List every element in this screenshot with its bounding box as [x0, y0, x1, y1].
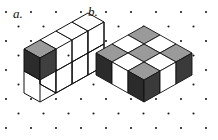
- isometric-figure-svg: [0, 0, 218, 140]
- grid-dot: [180, 98, 182, 100]
- grid-dot: [105, 98, 107, 100]
- grid-dot: [180, 127, 182, 129]
- grid-dot: [92, 83, 94, 85]
- grid-dot: [155, 98, 157, 100]
- grid-dot: [55, 127, 57, 129]
- grid-dot: [5, 69, 7, 71]
- grid-dot: [5, 11, 7, 13]
- panel-b-assembly: [96, 26, 192, 102]
- panel-a-label: a.: [13, 6, 23, 22]
- grid-dot: [205, 40, 207, 42]
- grid-dot: [67, 54, 69, 56]
- grid-dot: [80, 127, 82, 129]
- grid-dot: [205, 11, 207, 13]
- grid-dot: [192, 54, 194, 56]
- grid-dot: [130, 98, 132, 100]
- grid-dot: [192, 112, 194, 114]
- grid-dot: [117, 112, 119, 114]
- grid-dot: [167, 112, 169, 114]
- grid-dot: [42, 112, 44, 114]
- grid-dot: [30, 40, 32, 42]
- grid-dot: [205, 127, 207, 129]
- grid-dot: [80, 11, 82, 13]
- grid-dot: [92, 112, 94, 114]
- grid-dot: [17, 112, 19, 114]
- panel-a-assembly: [24, 13, 104, 102]
- grid-dot: [192, 25, 194, 27]
- grid-dot: [180, 11, 182, 13]
- grid-dot: [80, 98, 82, 100]
- grid-dot: [117, 25, 119, 27]
- figure-canvas: a. b.: [0, 0, 218, 140]
- grid-dot: [17, 25, 19, 27]
- grid-dot: [205, 69, 207, 71]
- grid-dot: [155, 11, 157, 13]
- grid-dot: [205, 98, 207, 100]
- grid-dot: [55, 98, 57, 100]
- grid-dot: [17, 54, 19, 56]
- grid-dot: [42, 25, 44, 27]
- grid-dot: [105, 11, 107, 13]
- grid-dot: [192, 83, 194, 85]
- grid-dot: [130, 127, 132, 129]
- grid-dot: [5, 98, 7, 100]
- grid-dot: [180, 40, 182, 42]
- grid-dot: [5, 127, 7, 129]
- grid-dot: [30, 127, 32, 129]
- grid-dot: [155, 127, 157, 129]
- grid-dot: [55, 11, 57, 13]
- grid-dot: [130, 11, 132, 13]
- grid-dot: [105, 127, 107, 129]
- grid-dot: [5, 40, 7, 42]
- grid-dot: [17, 83, 19, 85]
- panel-b-label: b.: [88, 4, 98, 20]
- grid-dot: [30, 11, 32, 13]
- grid-dot: [167, 25, 169, 27]
- grid-dot: [142, 112, 144, 114]
- grid-dot: [67, 112, 69, 114]
- grid-dot: [30, 98, 32, 100]
- grid-dot: [105, 40, 107, 42]
